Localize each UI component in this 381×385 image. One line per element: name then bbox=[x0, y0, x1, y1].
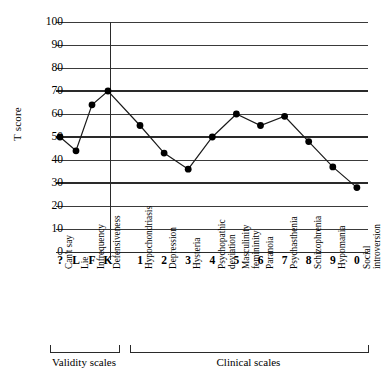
x-scale-name-1: Hypochondriasis bbox=[144, 206, 154, 269]
data-point-6[interactable] bbox=[257, 122, 264, 129]
mmpi-profile-chart: T score 0102030405060708090100 ?LFK12345… bbox=[0, 0, 381, 385]
y-tick-label-100: 100 bbox=[25, 16, 63, 27]
data-point-5[interactable] bbox=[233, 111, 240, 118]
bracket-label-clinical: Clinical scales bbox=[100, 356, 381, 368]
data-point-2[interactable] bbox=[161, 150, 168, 157]
y-tick-label-30: 30 bbox=[25, 177, 63, 188]
y-tick-label-40: 40 bbox=[25, 154, 63, 165]
y-tick-label-10: 10 bbox=[25, 223, 63, 234]
data-point-9[interactable] bbox=[329, 164, 336, 171]
y-tick-label-20: 20 bbox=[25, 200, 63, 211]
data-point-3[interactable] bbox=[185, 166, 192, 173]
x-scale-name-3: Hysteria bbox=[192, 238, 202, 270]
data-point-0[interactable] bbox=[354, 184, 361, 191]
y-tick-label-80: 80 bbox=[25, 62, 63, 73]
y-axis-label: T score bbox=[11, 89, 23, 159]
x-scale-name-0: Social introversion bbox=[362, 224, 381, 269]
x-scale-name-8: Schizophrenia bbox=[313, 216, 323, 269]
x-scale-name-5: Masculinity femininity bbox=[241, 225, 261, 269]
data-point-7[interactable] bbox=[281, 113, 288, 120]
x-scale-name-K: Defensiveness bbox=[112, 215, 122, 269]
x-scale-name-L: Lie bbox=[80, 257, 90, 269]
profile-polyline bbox=[60, 91, 357, 188]
y-tick-label-50: 50 bbox=[25, 131, 63, 142]
y-tick-label-90: 90 bbox=[25, 39, 63, 50]
bracket-validity bbox=[50, 345, 120, 353]
x-scale-name-2: Depression bbox=[168, 227, 178, 269]
x-scale-name-6: Paranoia bbox=[265, 236, 275, 269]
data-point-4[interactable] bbox=[209, 134, 216, 141]
y-tick-label-70: 70 bbox=[25, 85, 63, 96]
x-scale-name-7: Psychasthenia bbox=[289, 216, 299, 269]
data-point-F[interactable] bbox=[89, 101, 96, 108]
y-tick-label-60: 60 bbox=[25, 108, 63, 119]
x-scale-name-F: Infrequency bbox=[96, 224, 106, 269]
x-scale-name-?: Can't say bbox=[64, 235, 74, 269]
data-point-8[interactable] bbox=[305, 138, 312, 145]
x-scale-name-9: Hypomania bbox=[337, 226, 347, 269]
data-point-L[interactable] bbox=[73, 147, 80, 154]
data-point-K[interactable] bbox=[105, 88, 112, 95]
data-point-1[interactable] bbox=[137, 122, 144, 129]
bracket-clinical bbox=[130, 345, 369, 353]
x-scale-name-4: Psychopathic deviation bbox=[217, 219, 237, 269]
